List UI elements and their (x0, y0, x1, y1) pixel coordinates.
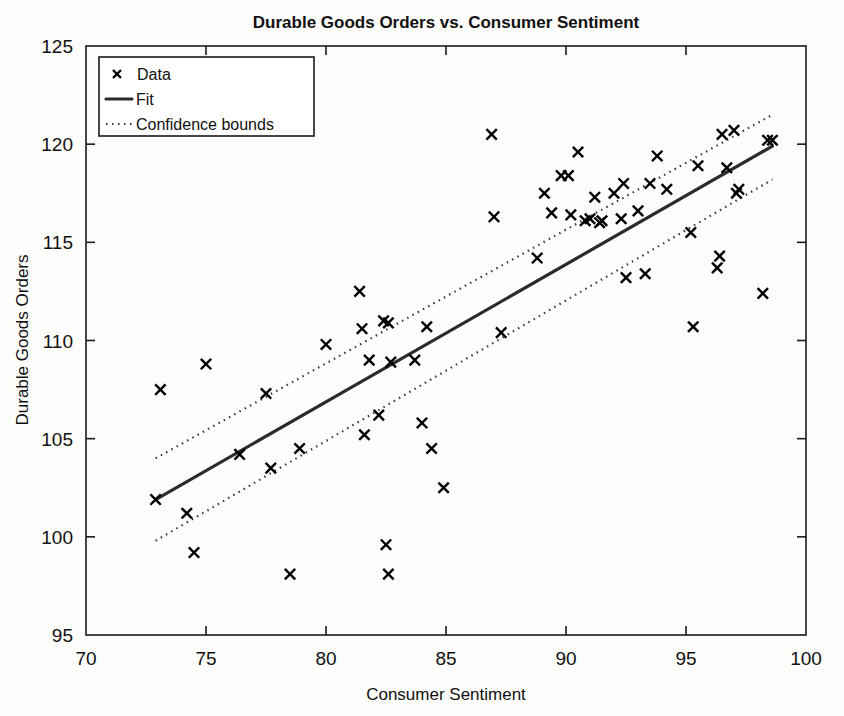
data-point-marker-x-icon (640, 269, 650, 279)
data-point-marker-x-icon (150, 494, 160, 504)
x-tick-label: 70 (75, 648, 96, 669)
data-point-marker-x-icon (717, 129, 727, 139)
x-tick-label: 100 (790, 648, 822, 669)
data-point-marker-x-icon (486, 129, 496, 139)
data-point-marker-x-icon (616, 214, 626, 224)
data-point-marker-x-icon (566, 210, 576, 220)
data-point-marker-x-icon (734, 184, 744, 194)
data-point-marker-x-icon (609, 188, 619, 198)
data-point-marker-x-icon (266, 463, 276, 473)
data-point-marker-x-icon (532, 253, 542, 263)
scatter-chart: Durable Goods Orders vs. Consumer Sentim… (0, 0, 844, 716)
legend[interactable]: Data Fit Confidence bounds (99, 57, 314, 136)
regression-fit-line (156, 146, 773, 499)
data-point-marker-x-icon (590, 192, 600, 202)
y-tick-label: 95 (52, 625, 73, 646)
data-point-marker-x-icon (539, 188, 549, 198)
data-point-marker-x-icon (381, 539, 391, 549)
data-point-marker-x-icon (496, 327, 506, 337)
data-point-marker-x-icon (285, 569, 295, 579)
legend-label-bounds: Confidence bounds (136, 116, 274, 133)
data-point-marker-x-icon (357, 324, 367, 334)
x-tick-label: 85 (435, 648, 456, 669)
data-point-marker-x-icon (426, 443, 436, 453)
y-tick-label: 105 (41, 429, 73, 450)
data-point-marker-x-icon (688, 322, 698, 332)
legend-label-data: Data (137, 66, 171, 83)
data-point-marker-x-icon (417, 418, 427, 428)
data-point-marker-x-icon (410, 355, 420, 365)
data-point-marker-x-icon (374, 410, 384, 420)
y-tick-label: 120 (41, 134, 73, 155)
data-point-marker-x-icon (422, 322, 432, 332)
x-tick-label: 80 (315, 648, 336, 669)
fit-line (156, 146, 773, 499)
y-tick-label: 125 (41, 36, 73, 57)
upper-confidence-bound (156, 115, 773, 459)
chart-title: Durable Goods Orders vs. Consumer Sentim… (253, 13, 640, 32)
data-point-marker-x-icon (686, 227, 696, 237)
data-point-marker-x-icon (201, 359, 211, 369)
data-point-marker-x-icon (758, 288, 768, 298)
data-point-marker-x-icon (189, 547, 199, 557)
confidence-bounds (156, 115, 773, 541)
legend-label-fit: Fit (136, 91, 154, 108)
x-tick-label: 75 (195, 648, 216, 669)
data-point-marker-x-icon (364, 355, 374, 365)
data-point-marker-x-icon (489, 212, 499, 222)
data-point-marker-x-icon (438, 483, 448, 493)
data-point-marker-x-icon (383, 569, 393, 579)
figure-container: Durable Goods Orders vs. Consumer Sentim… (0, 0, 844, 716)
y-axis-label: Durable Goods Orders (13, 254, 32, 425)
data-point-marker-x-icon (359, 430, 369, 440)
y-tick-label: 115 (43, 232, 73, 253)
data-point-marker-x-icon (573, 147, 583, 157)
data-point-marker-x-icon (182, 508, 192, 518)
data-point-marker-x-icon (621, 272, 631, 282)
x-axis-ticks: 707580859095100 (75, 46, 821, 669)
data-point-marker-x-icon (652, 151, 662, 161)
data-point-marker-x-icon (563, 170, 573, 180)
data-point-marker-x-icon (618, 178, 628, 188)
data-point-marker-x-icon (155, 384, 165, 394)
lower-confidence-bound (156, 180, 773, 541)
data-point-marker-x-icon (645, 178, 655, 188)
data-point-marker-x-icon (693, 161, 703, 171)
data-point-marker-x-icon (712, 263, 722, 273)
data-point-marker-x-icon (662, 184, 672, 194)
data-point-marker-x-icon (714, 251, 724, 261)
data-point-marker-x-icon (633, 206, 643, 216)
x-tick-label: 90 (555, 648, 576, 669)
x-tick-label: 95 (675, 648, 696, 669)
data-point-marker-x-icon (546, 208, 556, 218)
y-tick-label: 110 (43, 331, 73, 352)
data-point-marker-x-icon (354, 286, 364, 296)
y-tick-label: 100 (41, 527, 73, 548)
data-point-marker-x-icon (321, 339, 331, 349)
data-point-marker-x-icon (729, 125, 739, 135)
data-points (150, 125, 777, 579)
x-axis-label: Consumer Sentiment (366, 685, 526, 704)
data-point-marker-x-icon (294, 443, 304, 453)
